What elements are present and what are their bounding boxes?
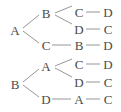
edge-a-c bbox=[55, 59, 72, 66]
tree2-end-node: C bbox=[102, 76, 114, 89]
tree1-end-node: C bbox=[102, 23, 114, 36]
tree1-branch-node: B bbox=[40, 7, 52, 20]
tree2-end-node: C bbox=[102, 93, 114, 106]
tree1-end-node: D bbox=[102, 6, 114, 19]
edge-a-c bbox=[23, 31, 39, 43]
tree1-root-node: A bbox=[9, 24, 21, 37]
tree2-root-node: B bbox=[9, 78, 21, 91]
tree1-leaf-node: C bbox=[73, 6, 85, 19]
tree1-leaf-node: B bbox=[73, 39, 85, 52]
edge-a-b bbox=[23, 15, 39, 28]
tree1-end-node: D bbox=[102, 39, 114, 52]
tree2-leaf-node: A bbox=[73, 93, 85, 106]
tree2-branch-node: D bbox=[40, 93, 52, 106]
tree1-leaf-node: D bbox=[73, 23, 85, 36]
edge-b-a bbox=[23, 69, 39, 82]
tree2-branch-node: A bbox=[40, 60, 52, 73]
tree1-branch-node: C bbox=[40, 39, 52, 52]
edge-b-d bbox=[55, 15, 72, 24]
edge-b-c bbox=[55, 6, 72, 13]
tree2-leaf-node: C bbox=[73, 58, 85, 71]
tree2-end-node: D bbox=[102, 58, 114, 71]
edge-a-d bbox=[55, 68, 72, 77]
edge-b-d bbox=[23, 85, 39, 97]
tree2-leaf-node: D bbox=[73, 76, 85, 89]
